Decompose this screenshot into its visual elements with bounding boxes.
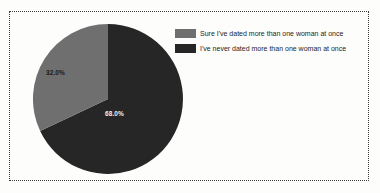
legend-label-never-dated: I've never dated more than one woman at … bbox=[200, 44, 346, 53]
pie-plot-area: 32.0% 68.0% bbox=[33, 24, 183, 174]
legend-item-sure-dated[interactable]: Sure I've dated more than one woman at o… bbox=[175, 26, 365, 40]
pie-svg bbox=[33, 24, 183, 174]
legend-item-never-dated[interactable]: I've never dated more than one woman at … bbox=[175, 41, 365, 55]
pie-chart-figure: 32.0% 68.0% Sure I've dated more than on… bbox=[0, 0, 380, 193]
legend-color-swatch-sure-dated bbox=[175, 29, 196, 38]
pie-slice-label-sure-dated: 32.0% bbox=[46, 69, 65, 76]
legend-label-sure-dated: Sure I've dated more than one woman at o… bbox=[200, 29, 343, 38]
chart-legend: Sure I've dated more than one woman at o… bbox=[175, 26, 365, 56]
pie-slice-label-never-dated: 68.0% bbox=[105, 110, 124, 117]
legend-color-swatch-never-dated bbox=[175, 44, 196, 53]
